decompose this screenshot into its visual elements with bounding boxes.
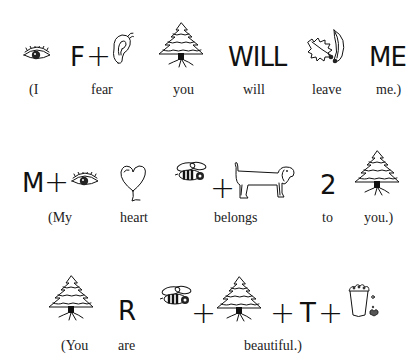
caption-word: beautiful.) xyxy=(244,339,302,353)
caption-word: to xyxy=(322,211,333,225)
caption-word: are xyxy=(118,339,135,353)
plus-sign: + xyxy=(44,167,69,197)
holly-leaf-icon xyxy=(304,28,348,68)
caption-word: leave xyxy=(312,83,342,97)
caption-word: you.) xyxy=(364,211,393,225)
ear-icon xyxy=(110,31,134,65)
rebus-letter: F xyxy=(70,44,84,70)
caption-word: belongs xyxy=(214,211,258,225)
tree-icon xyxy=(215,276,263,322)
rebus-letter: T xyxy=(300,300,315,326)
caption-word: (You xyxy=(61,339,88,353)
rebus-word: ME xyxy=(369,44,406,70)
eye-icon xyxy=(22,46,52,62)
bee-icon xyxy=(157,285,193,307)
tree-icon xyxy=(47,275,95,321)
rebus-number: 2 xyxy=(320,172,336,198)
heart-icon xyxy=(118,163,148,205)
rebus-letter: R xyxy=(118,298,135,324)
caption-word: heart xyxy=(120,211,148,225)
caption-word: (I xyxy=(29,83,38,97)
eye-icon xyxy=(70,172,100,188)
rebus-letter: M xyxy=(22,170,43,196)
caption-word: you xyxy=(173,83,194,97)
rebus-word: WILL xyxy=(228,44,286,70)
bee-icon xyxy=(172,161,208,183)
plus-sign: + xyxy=(270,298,295,328)
tree-icon xyxy=(353,150,401,196)
caption-word: (My xyxy=(48,211,72,225)
plus-sign: + xyxy=(191,298,216,328)
caption-word: me.) xyxy=(376,83,401,97)
plus-sign: + xyxy=(318,298,343,328)
caption-word: will xyxy=(243,83,265,97)
plus-sign: + xyxy=(86,41,111,71)
caption-word: fear xyxy=(91,83,113,97)
long-dog-icon xyxy=(232,161,296,201)
tree-icon xyxy=(157,22,205,68)
popcorn-bucket-icon xyxy=(346,283,380,321)
